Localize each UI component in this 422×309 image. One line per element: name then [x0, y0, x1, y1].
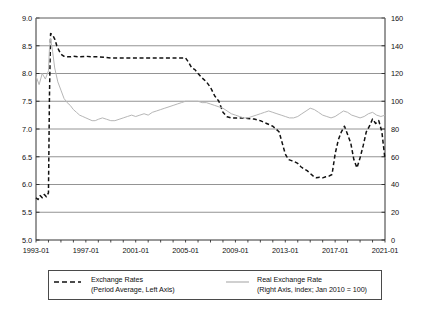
- y-axis-left-tick-label: 5.5: [2, 208, 32, 217]
- legend-entry-exchange-rates: Exchange Rates (Period Average, Left Axi…: [91, 275, 175, 294]
- y-axis-left-tick-label: 6.5: [2, 153, 32, 162]
- x-axis-tick-label: 2005-01: [162, 246, 210, 255]
- legend-sub-real-exchange-rate: (Right Axis, index; Jan 2010 = 100): [257, 285, 367, 295]
- x-axis-tick-label: 2013-01: [261, 246, 309, 255]
- chart-plot-area: [0, 0, 422, 309]
- x-axis-tick-label: 2009-01: [211, 246, 259, 255]
- y-axis-right-ticks: [382, 18, 386, 240]
- series-line-exchange-rates: [36, 34, 385, 200]
- y-axis-right-tick-label: 20: [391, 208, 399, 217]
- legend-entry-real-exchange-rate: Real Exchange Rate (Right Axis, index; J…: [257, 275, 367, 294]
- y-axis-right-tick-label: 100: [391, 97, 403, 106]
- chart-figure: 5.05.56.06.57.07.58.08.59.0 020406080100…: [0, 0, 422, 309]
- y-axis-left-tick-label: 8.0: [2, 69, 32, 78]
- y-axis-right-tick-label: 60: [391, 153, 399, 162]
- x-axis-tick-label: 2001-01: [112, 246, 160, 255]
- y-axis-left-tick-label: 9.0: [2, 14, 32, 23]
- y-axis-left-tick-label: 7.0: [2, 125, 32, 134]
- x-axis-tick-label: 2021-01: [361, 246, 409, 255]
- legend-sub-exchange-rates: (Period Average, Left Axis): [91, 285, 175, 295]
- legend-label-exchange-rates: Exchange Rates: [91, 275, 175, 285]
- legend-label-real-exchange-rate: Real Exchange Rate: [257, 275, 367, 285]
- x-axis-tick-label: 2017-01: [311, 246, 359, 255]
- y-axis-left-tick-label: 7.5: [2, 97, 32, 106]
- x-axis-tick-label: 1997-01: [62, 246, 110, 255]
- y-axis-left-tick-label: 8.5: [2, 42, 32, 51]
- y-axis-left-tick-label: 6.0: [2, 180, 32, 189]
- chart-legend: Exchange Rates (Period Average, Left Axi…: [48, 270, 382, 300]
- x-axis-tick-label: 1993-01: [12, 246, 60, 255]
- y-axis-right-tick-label: 140: [391, 42, 403, 51]
- series-layer: [36, 34, 385, 200]
- series-line-real-exchange-rate: [36, 39, 385, 121]
- solid-line-swatch: [225, 278, 251, 286]
- y-axis-left-ticks: [36, 18, 40, 240]
- y-axis-right-tick-label: 80: [391, 125, 399, 134]
- y-axis-right-tick-label: 120: [391, 69, 403, 78]
- gridlines: [36, 18, 385, 212]
- y-axis-right-tick-label: 0: [391, 236, 395, 245]
- dashed-line-swatch: [53, 278, 83, 286]
- y-axis-right-tick-label: 160: [391, 14, 403, 23]
- y-axis-right-tick-label: 40: [391, 180, 399, 189]
- y-axis-left-tick-label: 5.0: [2, 236, 32, 245]
